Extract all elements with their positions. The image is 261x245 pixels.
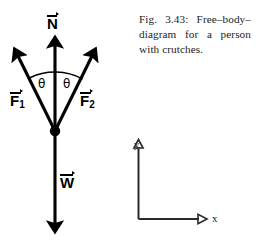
vector-label-F2: F2 xyxy=(80,88,95,110)
vector-label-W: W xyxy=(60,170,76,190)
vector-label-N: N xyxy=(47,11,60,31)
y-axis-label: y xyxy=(134,139,140,150)
vector-arrow-overbar-W xyxy=(60,170,76,176)
vertex-dot xyxy=(50,126,60,136)
vector-arrow-overbar-F2 xyxy=(80,88,94,94)
figure-canvas: N F1 F2 W θ θ Fig. 3.43: Free–body–diagr… xyxy=(0,0,261,245)
vector-arrow-overbar-N xyxy=(47,11,60,17)
vector-symbol-F1: F xyxy=(10,93,19,108)
vector-label-F1: F1 xyxy=(10,88,25,110)
vector-symbol-W: W xyxy=(60,175,74,190)
vector-symbol-N: N xyxy=(47,16,58,31)
coordinate-axes xyxy=(128,130,223,230)
angle-label-theta-right: θ xyxy=(63,78,70,90)
figure-caption: Fig. 3.43: Free–body–diagram for a perso… xyxy=(139,12,251,58)
x-axis-label: x xyxy=(212,213,218,224)
vector-arrow-overbar-F1 xyxy=(10,88,24,94)
vector-subscript-F2: 2 xyxy=(89,99,95,110)
angle-label-theta-left: θ xyxy=(38,78,45,90)
free-body-diagram xyxy=(0,0,130,245)
vector-symbol-F2: F xyxy=(80,93,89,108)
vector-subscript-F1: 1 xyxy=(19,99,25,110)
x-axis-arrowhead xyxy=(198,214,207,223)
